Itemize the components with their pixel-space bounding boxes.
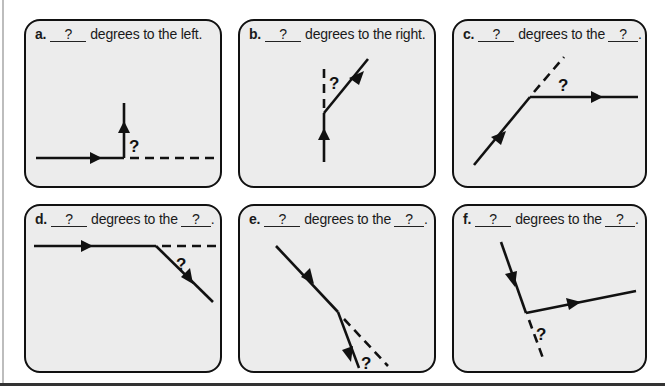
- arrowhead-icon: [81, 240, 93, 252]
- angle-label: ?: [329, 74, 339, 93]
- angle-label: ?: [129, 137, 139, 156]
- arrowhead-icon: [118, 121, 130, 133]
- panel-b-diagram: ?: [240, 21, 436, 188]
- angle-label: ?: [176, 255, 186, 274]
- panel-d-diagram: ?: [26, 206, 222, 373]
- arrowhead-icon: [301, 268, 314, 284]
- panel-c: c.?degrees to the?. ?: [452, 19, 647, 188]
- arrowhead-icon: [566, 298, 581, 310]
- arrowhead-icon: [591, 91, 603, 103]
- angle-label: ?: [361, 354, 371, 373]
- arrowhead-icon: [342, 346, 353, 362]
- panel-f: f.?degrees to the?. ?: [452, 204, 647, 373]
- page-bottom-rule: [0, 383, 665, 386]
- panel-e-diagram: ?: [240, 206, 436, 373]
- panel-d: d.?degrees to the?. ?: [24, 204, 222, 373]
- panel-b: b.?degrees to the right. ?: [238, 19, 436, 188]
- angle-label: ?: [558, 76, 568, 95]
- panel-a: a.?degrees to the left. ?: [24, 19, 222, 188]
- page-left-rule: [2, 0, 4, 386]
- arrowhead-icon: [505, 271, 517, 287]
- angle-label: ?: [536, 325, 546, 344]
- arrowhead-icon: [90, 152, 102, 164]
- panel-e: e.?degrees to the?. ?: [238, 204, 436, 373]
- panel-a-diagram: ?: [26, 21, 222, 188]
- panel-c-diagram: ?: [454, 21, 647, 188]
- arrowhead-icon: [318, 128, 330, 140]
- panel-f-diagram: ?: [454, 206, 647, 373]
